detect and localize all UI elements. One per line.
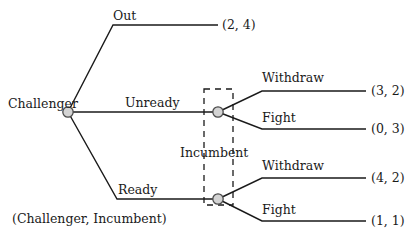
- edge-ready-withdraw: [218, 178, 366, 199]
- label-challenger: Challenger: [8, 98, 78, 111]
- branch-label-out: Out: [113, 10, 136, 23]
- label-incumbent: Incumbent: [180, 147, 248, 160]
- tree-graphics: [0, 0, 415, 242]
- node-incumbent-ready: [213, 194, 223, 204]
- node-incumbent-unready: [213, 107, 223, 117]
- branch-label-withdraw-bottom: Withdraw: [262, 160, 324, 173]
- game-tree-diagram: Challenger Incumbent Out Unready Ready W…: [0, 0, 415, 242]
- payoff-unready-withdraw: (3, 2): [371, 85, 405, 98]
- payoff-order-legend: (Challenger, Incumbent): [12, 213, 167, 226]
- payoff-ready-withdraw: (4, 2): [371, 172, 405, 185]
- branch-label-fight-bottom: Fight: [262, 204, 296, 217]
- payoff-out: (2, 4): [222, 19, 256, 32]
- branch-label-ready: Ready: [118, 184, 157, 197]
- edge-unready-withdraw: [218, 91, 366, 112]
- branch-label-fight-top: Fight: [262, 112, 296, 125]
- payoff-ready-fight: (1, 1): [371, 215, 405, 228]
- payoff-unready-fight: (0, 3): [371, 123, 405, 136]
- branch-label-unready: Unready: [125, 97, 179, 110]
- branch-label-withdraw-top: Withdraw: [262, 72, 324, 85]
